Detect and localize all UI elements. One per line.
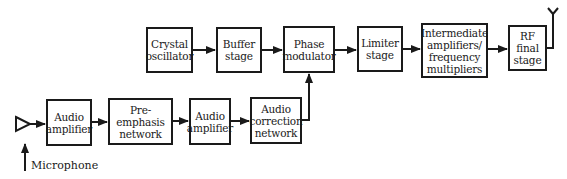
limiter-stage-block: Limiter stage (357, 26, 403, 72)
crystal-oscillator-block: Crystal oscillator (146, 27, 193, 73)
audio-correction-network-block: Audio correction network (250, 97, 302, 144)
audio-amplifier-block-2: Audio amplifier (189, 98, 231, 145)
intermediate-amplifiers-block: Intermediate amplifiers/ frequency multi… (421, 23, 488, 78)
pre-emphasis-network-block: Pre-emphasis network (108, 98, 173, 145)
microphone-label: Microphone (31, 159, 98, 172)
phase-modulator-block: Phase modulator (283, 26, 335, 73)
rf-final-stage-block: RF final stage (508, 25, 547, 71)
audio-amplifier-block-1: Audio amplifier (46, 99, 92, 146)
buffer-stage-block: Buffer stage (216, 27, 262, 73)
